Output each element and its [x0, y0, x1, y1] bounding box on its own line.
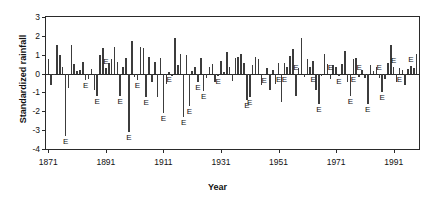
bar — [416, 54, 418, 74]
bar — [203, 74, 205, 91]
x-tick — [221, 149, 222, 153]
el-nino-marker: E — [397, 76, 402, 84]
bar — [358, 74, 360, 78]
bar — [111, 59, 113, 73]
el-nino-marker: E — [316, 106, 321, 114]
y-tick-label: -3 — [32, 125, 40, 135]
bar — [407, 69, 409, 74]
bar — [379, 74, 381, 79]
bar — [79, 70, 81, 74]
bar — [119, 74, 121, 97]
y-tick-label: 3 — [35, 12, 40, 22]
bar — [232, 74, 234, 82]
bar — [318, 74, 320, 104]
el-nino-marker: E — [261, 77, 266, 85]
bar — [410, 66, 412, 74]
bar — [114, 47, 116, 73]
y-tick — [42, 149, 46, 150]
x-tick — [279, 149, 280, 153]
bar — [235, 58, 237, 73]
bar — [341, 64, 343, 73]
y-tick-label: -1 — [32, 87, 40, 97]
bar — [347, 74, 349, 82]
x-axis-title: Year — [0, 182, 435, 192]
bar — [344, 51, 346, 74]
bar — [312, 61, 314, 73]
bar — [151, 74, 153, 82]
bar — [65, 74, 67, 136]
bar — [62, 67, 64, 74]
y-tick — [42, 74, 46, 75]
bar — [384, 74, 386, 80]
bar — [335, 67, 337, 74]
bar — [145, 74, 147, 98]
el-nino-marker: E — [167, 76, 172, 84]
x-tick — [163, 149, 164, 153]
bar — [255, 57, 257, 74]
bar — [194, 67, 196, 74]
el-nino-marker: E — [181, 119, 186, 127]
x-tick-label: 1931 — [212, 157, 231, 167]
bar — [82, 62, 84, 73]
bar — [94, 74, 96, 90]
bar — [143, 48, 145, 73]
bar — [50, 74, 52, 85]
bar — [289, 56, 291, 74]
y-axis-title: Standardized rainfall — [18, 9, 28, 149]
x-tick — [48, 149, 49, 153]
x-tick-label: 1911 — [154, 157, 172, 167]
bar — [134, 74, 136, 78]
plot-area: 3210-1-2-3-41871189119111931195119711991… — [45, 16, 420, 150]
el-nino-marker: E — [336, 78, 341, 86]
bar — [393, 67, 395, 74]
bar — [399, 68, 401, 74]
bar — [413, 68, 415, 74]
el-nino-marker: E — [356, 64, 361, 72]
bar — [48, 59, 50, 73]
bar — [209, 67, 211, 74]
bar — [197, 74, 199, 82]
bar — [163, 74, 165, 114]
y-tick-label: -4 — [32, 144, 40, 154]
bar — [226, 52, 228, 74]
bar — [367, 74, 369, 104]
el-nino-marker: E — [95, 98, 100, 106]
y-tick-label: 0 — [35, 69, 40, 79]
el-nino-marker: E — [351, 76, 356, 84]
bar — [304, 74, 306, 78]
el-nino-marker: E — [135, 82, 140, 90]
bar — [263, 74, 265, 76]
el-nino-marker: E — [328, 64, 333, 72]
bar — [381, 74, 383, 93]
el-nino-marker: E — [63, 138, 68, 146]
el-nino-marker: E — [391, 57, 396, 65]
el-nino-marker: E — [103, 58, 108, 66]
x-tick — [106, 149, 107, 153]
el-nino-marker: E — [118, 98, 123, 106]
bar — [387, 63, 389, 73]
bar — [53, 74, 55, 76]
el-nino-marker: E — [161, 115, 166, 123]
y-tick-label: 2 — [35, 31, 40, 41]
bar — [237, 57, 239, 74]
x-tick-label: 1951 — [269, 157, 288, 167]
bar — [122, 67, 124, 74]
bar — [186, 55, 188, 74]
x-tick — [394, 149, 395, 153]
bar — [404, 74, 406, 85]
x-tick-label: 1891 — [96, 157, 115, 167]
bar — [99, 55, 101, 74]
bar — [278, 63, 280, 73]
bar — [73, 64, 75, 73]
el-nino-marker: E — [293, 64, 298, 72]
bar — [125, 58, 127, 73]
bar — [157, 74, 159, 98]
bar — [189, 74, 191, 106]
plot-inner: 3210-1-2-3-41871189119111931195119711991… — [46, 17, 419, 149]
bar — [295, 74, 297, 97]
bar — [128, 74, 130, 132]
y-tick-label: 1 — [35, 50, 40, 60]
x-tick-label: 1991 — [384, 157, 403, 167]
bar — [131, 41, 133, 74]
el-nino-marker: E — [365, 106, 370, 114]
